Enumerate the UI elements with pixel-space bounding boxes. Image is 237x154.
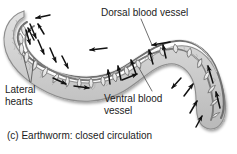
label-dorsal-blood-vessel: Dorsal blood vessel xyxy=(101,7,188,19)
arrow-dorsal-head xyxy=(36,15,50,18)
arrow-dorsal-1 xyxy=(90,48,107,50)
earthworm-circulation-figure: Dorsal blood vessel Lateral hearts Ventr… xyxy=(0,0,237,154)
label-ventral-line2: vessel xyxy=(104,105,162,117)
leader-dorsal xyxy=(141,19,152,45)
label-lateral-hearts: Lateral hearts xyxy=(5,84,36,107)
label-lateral-line1: Lateral xyxy=(5,84,36,96)
arrow-posterior-1 xyxy=(172,78,181,88)
label-dorsal-line1: Dorsal blood vessel xyxy=(101,7,188,19)
label-lateral-line2: hearts xyxy=(5,96,36,108)
label-ventral-line1: Ventral blood xyxy=(104,93,162,105)
arrow-anterior-3 xyxy=(38,40,44,54)
arrow-anterior-5 xyxy=(62,56,68,68)
arrow-heart-2 xyxy=(38,24,44,34)
anterior-flow-arrows xyxy=(26,24,68,68)
arrow-anterior-4 xyxy=(50,48,56,62)
arrow-ventral-4 xyxy=(184,84,193,96)
figure-caption: (c) Earthworm: closed circulation xyxy=(7,130,152,142)
posterior-flow-arrows xyxy=(172,78,181,88)
label-ventral-blood-vessel: Ventral blood vessel xyxy=(104,93,162,116)
